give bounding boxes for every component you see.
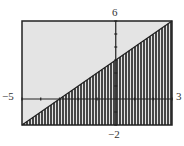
- ymin-label: −2: [108, 129, 120, 140]
- ymax-label: 6: [112, 7, 118, 18]
- xmin-label: −5: [2, 91, 14, 102]
- xmax-label: 3: [176, 91, 182, 102]
- calculator-screen: [0, 0, 184, 146]
